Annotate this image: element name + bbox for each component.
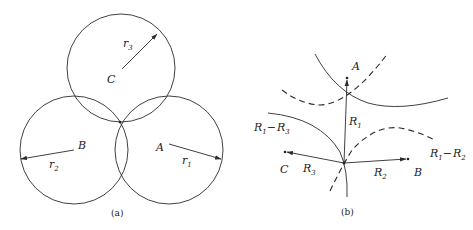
- label-r2-vector: R2: [373, 166, 387, 181]
- label-a: A: [155, 141, 164, 154]
- label-point-a: A: [351, 60, 360, 73]
- circle-c: [67, 14, 175, 122]
- point-b: [407, 158, 410, 161]
- label-r2: r2: [49, 158, 59, 173]
- panel-b: A B C R1 R2 R3 R1−R3 R1−R2 (b): [253, 53, 466, 217]
- label-r3: r3: [123, 37, 133, 52]
- intersection-point: [119, 121, 122, 124]
- panel-a: C r3 B r2 A r1 (a): [20, 14, 223, 218]
- caption-b: (b): [341, 207, 354, 217]
- label-r1: r1: [182, 154, 192, 169]
- vector-r3: [287, 152, 344, 163]
- label-b: B: [77, 139, 86, 152]
- label-r1-vector: R1: [348, 115, 362, 130]
- origin-point: [343, 162, 346, 165]
- point-a: [346, 77, 349, 80]
- vector-r2: [344, 159, 406, 163]
- label-r3-vector: R3: [302, 162, 316, 177]
- label-r1-minus-r2: R1−R2: [429, 147, 466, 162]
- label-point-c: C: [280, 163, 289, 176]
- point-c: [284, 151, 287, 154]
- solid-curve-upper: [315, 54, 448, 107]
- radius-r1-arrow: [169, 144, 221, 159]
- radius-r2-arrow: [21, 150, 74, 159]
- dashed-curve-r1-r2: [330, 128, 436, 191]
- dashed-curve-upper: [282, 53, 388, 105]
- label-c: C: [107, 73, 116, 86]
- label-r1-minus-r3: R1−R3: [253, 121, 290, 136]
- caption-a: (a): [111, 208, 123, 218]
- vector-r1: [344, 80, 347, 163]
- trilateration-diagram: C r3 B r2 A r1 (a) A B C R1 R2 R3 R1−R3 …: [0, 0, 473, 230]
- circle-a: [115, 96, 223, 204]
- label-point-b: B: [413, 166, 422, 179]
